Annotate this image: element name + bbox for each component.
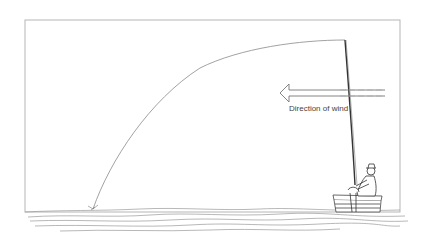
platform-box (333, 195, 382, 212)
wind-arrow (280, 84, 385, 102)
fishing-illustration (0, 0, 422, 242)
fishing-line (93, 40, 345, 209)
frame-border (25, 20, 400, 212)
wind-arrow-tail-dashes (340, 90, 385, 96)
wind-direction-label: Direction of wind (289, 104, 348, 113)
line-splash (88, 205, 98, 210)
diagram-stage: Direction of wind (0, 0, 422, 242)
